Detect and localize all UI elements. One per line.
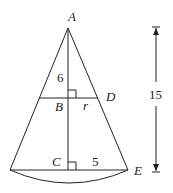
cone-right-side — [68, 28, 128, 170]
label-base-radius: 5 — [92, 154, 99, 169]
label-r: r — [83, 98, 89, 113]
label-upper-height: 6 — [57, 70, 64, 85]
cone-diagram: A 6 B r D C 5 E 15 — [0, 0, 173, 193]
label-total-height: 15 — [149, 87, 162, 102]
right-angle-marker-b — [68, 90, 76, 98]
label-c: C — [52, 154, 61, 169]
arrow-up-icon — [153, 28, 159, 35]
label-b: B — [55, 99, 63, 114]
right-angle-marker-c — [68, 162, 76, 170]
label-a: A — [67, 9, 76, 24]
label-d: D — [105, 89, 116, 104]
base-arc — [10, 170, 128, 183]
label-e: E — [133, 163, 142, 178]
arrow-down-icon — [153, 164, 159, 171]
